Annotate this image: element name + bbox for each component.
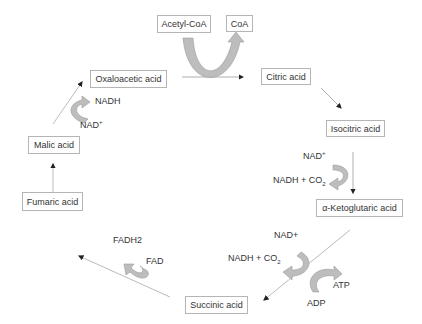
node-isocitric-acid: Isocitric acid <box>326 120 385 137</box>
node-succinic-acid: Succinic acid <box>185 296 248 314</box>
node-citric-acid: Citric acid <box>261 68 311 85</box>
node-fumaric-acid: Fumaric acid <box>22 192 83 211</box>
cofactor-nad-isocitric: NAD+ <box>303 150 326 161</box>
cofactor-nadh-co2-isocitric: NADH + CO2 <box>273 175 326 187</box>
cofactor-nadh-malic: NADH <box>95 96 121 106</box>
node-acetyl-coa: Acetyl-CoA <box>157 15 211 33</box>
node-ketoglutaric-acid: α-Ketoglutaric acid <box>316 199 403 217</box>
node-malic-acid: Malic acid <box>28 136 80 154</box>
pathway-arrows <box>0 0 422 324</box>
cofactor-fad: FAD <box>146 256 164 266</box>
cofactor-adp: ADP <box>307 298 326 308</box>
cofactor-fadh2: FADH2 <box>113 235 142 245</box>
node-coa: CoA <box>226 15 253 32</box>
cofactor-nad-malic: NAD+ <box>80 119 103 130</box>
cofactor-nad-ketoglutaric: NAD+ <box>274 230 298 240</box>
cofactor-nadh-co2-ketoglutaric: NADH + CO2 <box>228 253 281 265</box>
node-oxaloacetic-acid: Oxaloacetic acid <box>90 70 167 88</box>
cofactor-atp: ATP <box>333 280 350 290</box>
